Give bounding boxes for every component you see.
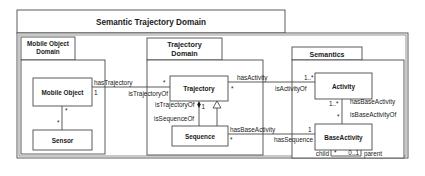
multiplicity-label: 1 xyxy=(202,103,206,110)
role-label: hasBaseActivity xyxy=(350,98,396,106)
multiplicity-label: 1 xyxy=(308,126,312,133)
package-title-line1: Mobile Object xyxy=(27,40,70,48)
class-name: Sequence xyxy=(185,133,216,141)
class-name: BaseActivity xyxy=(324,134,363,142)
class-name: Sensor xyxy=(52,137,74,144)
role-label: child xyxy=(316,150,330,157)
package-title: Semantic Trajectory Domain xyxy=(96,18,206,27)
class-base-activity: BaseActivity xyxy=(315,124,372,150)
package-title-line1: Trajectory xyxy=(167,40,201,49)
role-label: hasBaseActivity xyxy=(230,126,276,134)
class-name: Trajectory xyxy=(183,85,215,93)
role-label: isActivityOf xyxy=(275,85,307,93)
class-trajectory: Trajectory xyxy=(170,76,228,101)
role-label: isSequenceOf xyxy=(154,115,194,123)
class-sequence: Sequence xyxy=(172,126,228,146)
multiplicity-label: 1..* xyxy=(304,74,314,81)
role-label: isTrajectoryOf xyxy=(155,101,195,109)
role-label: parent xyxy=(364,150,382,158)
class-mobile-object: Mobile Object xyxy=(33,78,92,106)
role-label: hasActivity xyxy=(237,74,268,82)
class-name: Activity xyxy=(332,83,356,91)
role-label: isBaseActivityOf xyxy=(350,111,396,119)
package-title: Semantics xyxy=(309,51,344,58)
class-activity: Activity xyxy=(315,73,372,99)
uml-diagram: Semantic Trajectory Domain Mobile Object… xyxy=(0,0,425,176)
multiplicity-label: 0..1 xyxy=(348,149,359,156)
role-label: hasSequence xyxy=(274,136,314,144)
role-label: isTrajectoryOf xyxy=(128,90,168,98)
package-title-line2: Domain xyxy=(171,49,197,58)
multiplicity-label: 1..* xyxy=(329,100,339,107)
class-name: Mobile Object xyxy=(42,89,85,97)
diagram-svg: Semantic Trajectory Domain Mobile Object… xyxy=(0,0,425,176)
package-title-line2: Domain xyxy=(36,48,60,55)
multiplicity-label: 1 xyxy=(94,89,98,96)
class-sensor: Sensor xyxy=(33,130,92,150)
role-label: hasTrajectory xyxy=(94,79,133,87)
